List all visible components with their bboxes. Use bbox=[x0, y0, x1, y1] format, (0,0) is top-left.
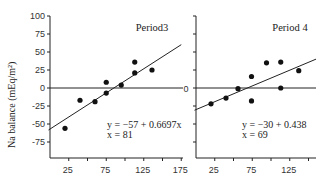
y-axis-title: Na balance (mEq/m²) bbox=[3, 40, 17, 170]
data-point bbox=[223, 95, 228, 100]
data-point bbox=[249, 98, 254, 103]
data-point bbox=[104, 80, 109, 85]
x-tick-label: 25 bbox=[209, 165, 219, 175]
y-tick-label: 75 bbox=[35, 29, 45, 39]
data-point bbox=[62, 126, 67, 131]
data-point bbox=[104, 90, 109, 95]
y-tick-label: -50 bbox=[32, 119, 45, 129]
data-point bbox=[249, 74, 254, 79]
data-point bbox=[296, 68, 301, 73]
panel-1-n-label: x = 81 bbox=[107, 129, 133, 140]
x-tick-label: 25 bbox=[63, 165, 73, 175]
y-tick-label: -25 bbox=[32, 101, 45, 111]
y-tick-label: 0 bbox=[40, 83, 45, 93]
y-tick-label: 25 bbox=[35, 65, 45, 75]
data-point bbox=[132, 70, 137, 75]
y-tick-label: 0 bbox=[183, 84, 188, 94]
data-point bbox=[264, 60, 269, 65]
data-point bbox=[278, 85, 283, 90]
panel-2-title: Period 4 bbox=[272, 22, 308, 33]
x-tick-label: 75 bbox=[100, 165, 110, 175]
data-point bbox=[208, 101, 213, 106]
chart-canvas: Na balance (mEq/m²)1007550250-25-50-7525… bbox=[0, 0, 333, 189]
y-tick-label: -75 bbox=[32, 137, 45, 147]
data-point bbox=[149, 67, 154, 72]
data-point bbox=[77, 98, 82, 103]
panel-1-title: Period3 bbox=[136, 22, 169, 33]
data-point bbox=[235, 86, 240, 91]
data-point bbox=[132, 59, 137, 64]
panel-1-regression-line bbox=[49, 45, 182, 130]
panel-2-n-label: x = 69 bbox=[242, 129, 268, 140]
y-tick-label: 50 bbox=[35, 47, 45, 57]
y-tick-label: 100 bbox=[30, 11, 45, 21]
x-tick-label: 125 bbox=[135, 165, 150, 175]
data-point bbox=[278, 59, 283, 64]
x-tick-label: 125 bbox=[281, 165, 296, 175]
data-point bbox=[92, 99, 97, 104]
data-point bbox=[119, 83, 124, 88]
x-tick-label: 75 bbox=[246, 165, 256, 175]
x-tick-label: 175 bbox=[173, 165, 188, 175]
